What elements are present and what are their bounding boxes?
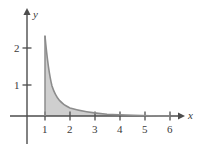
- curve-path: [45, 36, 170, 116]
- x-tick-label-3: 3: [92, 124, 98, 135]
- y-tick-label-2: 2: [14, 43, 20, 54]
- y-axis-label: y: [33, 9, 38, 20]
- x-tick-label-2: 2: [67, 124, 73, 135]
- x-tick-label-4: 4: [117, 124, 123, 135]
- x-tick-label-1: 1: [42, 124, 48, 135]
- x-tick-label-6: 6: [167, 124, 173, 135]
- x-tick-label-5: 5: [142, 124, 148, 135]
- x-axis-label: x: [188, 110, 193, 121]
- y-axis-arrowhead: [23, 8, 30, 15]
- function-graph-figure: 1 2 3 4 5 6 1 2 y x: [0, 0, 198, 144]
- x-axis-arrowhead: [178, 112, 185, 119]
- y-tick-label-1: 1: [14, 80, 20, 91]
